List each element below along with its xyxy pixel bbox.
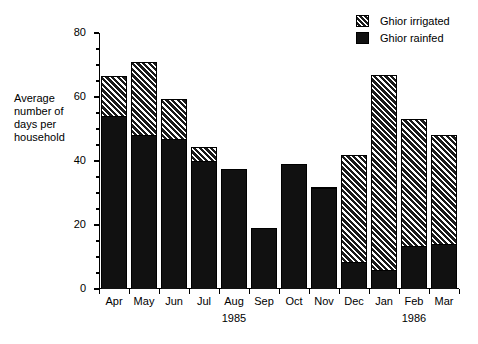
bar-segment-rainfed-nov: [311, 188, 337, 289]
x-axis-label-sep: Sep: [249, 295, 279, 307]
x-axis-label-jan: Jan: [369, 295, 399, 307]
bar-nov: [311, 187, 337, 289]
x-axis-year-1985: 1985: [219, 312, 249, 324]
bar-segment-rainfed-dec: [341, 262, 367, 289]
y-tick-label-20: 20: [74, 219, 86, 230]
y-axis-title-line-2: number of: [14, 105, 88, 118]
bar-segment-rainfed-jan: [371, 270, 397, 289]
bar-aug: [221, 169, 247, 289]
bar-segment-irrigated-feb: [401, 119, 427, 245]
x-tick-apr: [99, 289, 100, 294]
bar-segment-rainfed-mar: [431, 244, 457, 289]
x-tick-jul: [189, 289, 190, 294]
bar-segment-irrigated-dec: [341, 155, 367, 262]
x-tick-nov: [309, 289, 310, 294]
bar-segment-irrigated-jul: [191, 147, 217, 161]
bar-feb: [401, 119, 427, 289]
x-axis-label-may: May: [129, 295, 159, 307]
x-axis-label-aug: Aug: [219, 295, 249, 307]
y-tick-label-60: 60: [74, 91, 86, 102]
legend-swatch-hatched-icon: [356, 15, 369, 27]
bar-segment-irrigated-jun: [161, 99, 187, 139]
x-axis-year-1986: 1986: [399, 312, 429, 324]
legend-item-irrigated: Ghior irrigated: [356, 12, 478, 29]
bar-segment-irrigated-mar: [431, 135, 457, 244]
x-tick-sep: [249, 289, 250, 294]
y-tick-label-40: 40: [74, 155, 86, 166]
plot-area: 020406080: [99, 33, 459, 289]
x-tick-end: [459, 289, 460, 294]
x-axis-label-dec: Dec: [339, 295, 369, 307]
bar-jan: [371, 75, 397, 289]
x-tick-feb: [399, 289, 400, 294]
x-tick-may: [129, 289, 130, 294]
bar-dec: [341, 155, 367, 289]
bar-segment-rainfed-sep: [251, 228, 277, 289]
legend-label-irrigated: Ghior irrigated: [380, 15, 450, 27]
bar-segment-rainfed-apr: [101, 116, 127, 289]
y-tick-label-80: 80: [74, 27, 86, 38]
x-axis-label-mar: Mar: [429, 295, 459, 307]
x-tick-jan: [369, 289, 370, 294]
bar-segment-rainfed-aug: [221, 169, 247, 289]
bar-jun: [161, 99, 187, 289]
x-axis-label-feb: Feb: [399, 295, 429, 307]
bar-sep: [251, 228, 277, 289]
x-axis-label-oct: Oct: [279, 295, 309, 307]
y-axis-title-line-4: household: [14, 131, 88, 144]
bar-mar: [431, 135, 457, 289]
bar-group: [99, 33, 459, 289]
x-tick-mar: [429, 289, 430, 294]
bar-segment-rainfed-jun: [161, 139, 187, 289]
bar-apr: [101, 76, 127, 289]
x-axis-label-jul: Jul: [189, 295, 219, 307]
bar-segment-irrigated-may: [131, 62, 157, 136]
x-tick-dec: [339, 289, 340, 294]
bar-may: [131, 62, 157, 289]
bar-segment-rainfed-feb: [401, 246, 427, 289]
y-tick-label-0: 0: [80, 283, 86, 294]
bar-segment-irrigated-jan: [371, 75, 397, 270]
x-axis-label-jun: Jun: [159, 295, 189, 307]
bar-segment-rainfed-may: [131, 135, 157, 289]
bar-segment-irrigated-nov: [311, 187, 337, 189]
x-tick-aug: [219, 289, 220, 294]
x-axis-labels: AprMayJunJulAugSepOctNovDecJanFebMar1985…: [99, 295, 459, 341]
x-axis-label-apr: Apr: [99, 295, 129, 307]
x-tick-oct: [279, 289, 280, 294]
bar-segment-rainfed-jul: [191, 161, 217, 289]
bar-chart: Ghior irrigated Ghior rainfed Average nu…: [0, 0, 478, 344]
bar-jul: [191, 147, 217, 289]
x-axis-label-nov: Nov: [309, 295, 339, 307]
x-tick-jun: [159, 289, 160, 294]
bar-segment-irrigated-apr: [101, 76, 127, 116]
bar-segment-rainfed-oct: [281, 164, 307, 289]
bar-oct: [281, 164, 307, 289]
y-axis-title-line-3: days per: [14, 118, 88, 131]
